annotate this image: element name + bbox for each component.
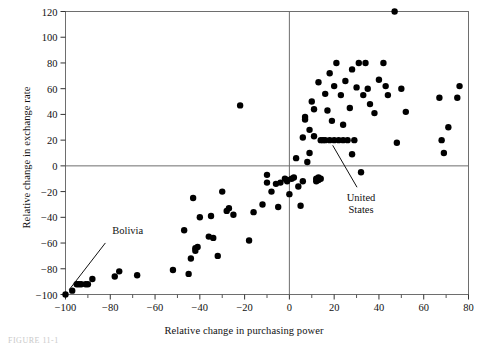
data-point: [264, 172, 270, 178]
y-tick-label: −80: [28, 263, 58, 274]
data-point: [208, 213, 214, 219]
plot-canvas: [0, 0, 488, 348]
x-tick-label: −100: [55, 302, 77, 313]
x-tick-label: 60: [418, 302, 429, 313]
data-point: [349, 66, 355, 72]
data-point: [360, 92, 366, 98]
data-point: [380, 60, 386, 66]
data-point: [293, 155, 299, 161]
data-point: [188, 255, 194, 261]
x-tick-label: −80: [102, 302, 118, 313]
axis-ticks: [61, 12, 469, 300]
data-point: [291, 174, 297, 180]
data-point: [333, 60, 339, 66]
annotation-label-line: United: [347, 192, 376, 204]
data-point: [246, 237, 252, 243]
data-point: [324, 107, 330, 113]
data-point: [181, 227, 187, 233]
data-point: [438, 137, 444, 143]
data-point: [403, 109, 409, 115]
data-points: [62, 8, 462, 297]
annotation-label-line: Bolivia: [112, 225, 143, 237]
data-point: [295, 183, 301, 189]
data-point: [385, 92, 391, 98]
data-point: [318, 176, 324, 182]
y-tick-label: 20: [28, 135, 58, 146]
data-point: [340, 122, 346, 128]
data-point: [456, 83, 462, 89]
data-point: [371, 110, 377, 116]
reference-lines: [66, 12, 469, 295]
data-point: [306, 127, 312, 133]
data-point: [170, 267, 176, 273]
data-point: [311, 133, 317, 139]
data-point: [297, 203, 303, 209]
data-point: [194, 244, 200, 250]
data-point: [89, 276, 95, 282]
y-tick-label: 60: [28, 83, 58, 94]
data-point: [264, 179, 270, 185]
data-point: [309, 98, 315, 104]
data-point: [302, 116, 308, 122]
data-point: [356, 60, 362, 66]
data-point: [112, 273, 118, 279]
data-point: [331, 83, 337, 89]
data-point: [362, 60, 368, 66]
plot-frame: [66, 12, 469, 295]
data-point: [376, 76, 382, 82]
data-point: [219, 188, 225, 194]
data-point: [436, 94, 442, 100]
scatter-plot-figure: −100−80−60−40−20020406080 −100−80−60−40−…: [0, 0, 488, 348]
y-axis-title: Relative change in exchange rate: [21, 28, 32, 288]
x-tick-label: 0: [287, 302, 292, 313]
data-point: [286, 191, 292, 197]
y-tick-label: −40: [28, 212, 58, 223]
data-point: [445, 124, 451, 130]
data-point: [391, 8, 397, 14]
data-point: [344, 137, 350, 143]
data-point: [326, 70, 332, 76]
data-point: [226, 205, 232, 211]
data-point: [190, 195, 196, 201]
data-point: [134, 272, 140, 278]
data-point: [311, 106, 317, 112]
data-point: [259, 201, 265, 207]
annotation-label: Bolivia: [112, 225, 143, 237]
data-point: [338, 92, 344, 98]
data-point: [230, 212, 236, 218]
data-point: [62, 291, 68, 297]
data-point: [315, 79, 321, 85]
data-point: [329, 118, 335, 124]
data-point: [300, 134, 306, 140]
figure-caption-fragment: FIGURE 11-1: [8, 336, 59, 345]
data-point: [365, 85, 371, 91]
data-point: [116, 268, 122, 274]
x-tick-label: 40: [374, 302, 385, 313]
y-tick-label: 40: [28, 109, 58, 120]
data-point: [237, 102, 243, 108]
data-point: [441, 150, 447, 156]
y-tick-label: 100: [28, 32, 58, 43]
data-point: [394, 140, 400, 146]
y-tick-label: −60: [28, 238, 58, 249]
data-point: [210, 235, 216, 241]
data-point: [367, 101, 373, 107]
data-point: [342, 78, 348, 84]
data-point: [358, 169, 364, 175]
data-point: [353, 84, 359, 90]
x-tick-label: 80: [463, 302, 474, 313]
data-point: [197, 214, 203, 220]
y-tick-label: 0: [28, 160, 58, 171]
y-tick-label: −100: [28, 289, 58, 300]
data-point: [300, 178, 306, 184]
y-tick-label: −20: [28, 186, 58, 197]
x-tick-label: −20: [236, 302, 252, 313]
x-tick-label: −60: [147, 302, 163, 313]
data-point: [306, 150, 312, 156]
data-point: [322, 91, 328, 97]
annotation-label-line: States: [347, 204, 376, 216]
x-tick-label: 20: [329, 302, 340, 313]
annotation-label: UnitedStates: [347, 192, 376, 215]
data-point: [454, 94, 460, 100]
data-point: [398, 85, 404, 91]
